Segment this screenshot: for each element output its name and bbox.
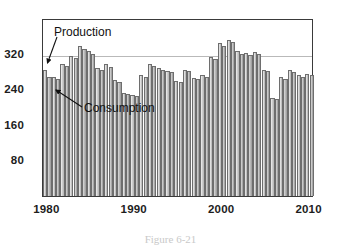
production-annotation-label: Production — [54, 25, 111, 39]
consumption-annotation-label: Consumption — [84, 101, 155, 115]
x-axis-tick-label-2000: 2000 — [208, 203, 234, 215]
figure-caption: Figure 6-21 — [0, 233, 341, 245]
x-axis-tick-label-2010: 2010 — [295, 203, 321, 215]
x-axis-tick-label-1980: 1980 — [33, 203, 59, 215]
y-axis-tick-label-160: 160 — [0, 119, 24, 131]
y-axis-tick-label-240: 240 — [0, 83, 24, 95]
y-axis-tick-label-80: 80 — [0, 154, 24, 166]
x-axis-tick-label-1990: 1990 — [121, 203, 147, 215]
bar-cons-2010 — [310, 75, 314, 196]
y-axis-tick-label-320: 320 — [0, 48, 24, 60]
figure-container: 320 240 160 80 1980 1990 2000 2010 Produ… — [0, 0, 341, 246]
plot-area — [42, 19, 313, 197]
